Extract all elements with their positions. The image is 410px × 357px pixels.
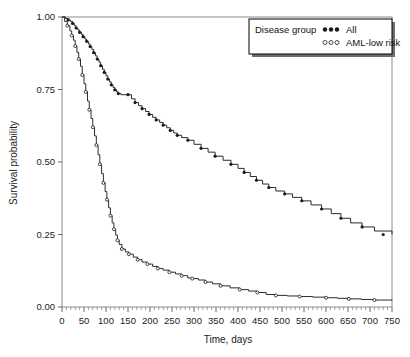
censor-marker: [96, 57, 99, 60]
legend-entry-label: AML-low risk: [346, 37, 401, 48]
censor-marker: [320, 207, 323, 210]
censor-marker: [238, 288, 241, 291]
censor-marker: [117, 92, 120, 95]
censor-marker: [71, 22, 74, 25]
censor-marker: [92, 51, 95, 54]
censor-marker: [74, 26, 77, 29]
legend-marker: [323, 27, 327, 31]
censor-marker: [99, 64, 102, 67]
censor-marker: [98, 163, 101, 166]
censor-marker: [120, 248, 123, 251]
x-tick-label: 100: [98, 315, 114, 326]
plot-frame: [62, 17, 392, 307]
y-tick-label: 0.00: [37, 301, 56, 312]
x-tick-label: 450: [252, 315, 268, 326]
x-axis-ticks: [62, 307, 392, 312]
x-tick-label: 200: [142, 315, 158, 326]
x-tick-label: 600: [318, 315, 334, 326]
x-axis-tick-labels: 0501001502002503003504004505005506006507…: [59, 315, 400, 326]
censor-marker: [84, 90, 87, 93]
y-tick-label: 0.75: [37, 84, 56, 95]
censor-marker: [109, 214, 112, 217]
y-tick-label: 0.50: [37, 156, 56, 167]
y-axis-tick-labels: 0.000.250.500.751.00: [37, 11, 56, 312]
km-curve-aml-low-risk: [62, 17, 392, 301]
censor-marker: [140, 107, 143, 110]
censor-marker: [214, 155, 217, 158]
x-tick-label: 550: [296, 315, 312, 326]
legend-entry-label: All: [346, 24, 357, 35]
censor-marker: [103, 71, 106, 74]
censor-marker: [339, 217, 342, 220]
x-tick-label: 150: [120, 315, 136, 326]
x-tick-label: 400: [230, 315, 246, 326]
censor-marker: [116, 239, 119, 242]
censor-marker: [373, 299, 376, 302]
y-tick-label: 1.00: [37, 11, 56, 22]
legend-marker: [329, 41, 333, 45]
censor-marker: [162, 124, 165, 127]
censor-marker: [66, 24, 69, 27]
censor-marker: [219, 284, 222, 287]
x-tick-label: 300: [186, 315, 202, 326]
censor-marker: [105, 198, 108, 201]
censor-marker: [113, 88, 116, 91]
legend-marker: [335, 27, 339, 31]
plot-border: [62, 17, 392, 307]
y-axis-ticks: [58, 17, 62, 307]
x-tick-label: 250: [164, 315, 180, 326]
x-axis-title: Time, days: [204, 334, 253, 345]
censor-marker: [169, 129, 172, 132]
censor-marker: [256, 291, 259, 294]
x-tick-label: 0: [59, 315, 64, 326]
censor-marker: [325, 296, 328, 299]
censor-marker: [156, 267, 159, 270]
censor-marker: [82, 35, 85, 38]
x-tick-label: 350: [208, 315, 224, 326]
censor-marker: [191, 277, 194, 280]
censor-marker: [168, 271, 171, 274]
censor-marker: [255, 179, 258, 182]
legend-marker: [335, 41, 339, 45]
censor-marker: [148, 113, 151, 116]
censor-marker: [347, 297, 350, 300]
censor-marker: [176, 134, 179, 137]
censor-marker: [78, 31, 81, 34]
censor-marker: [229, 163, 232, 166]
censor-marker: [91, 126, 94, 129]
censor-marker: [95, 144, 98, 147]
censor-marker: [67, 18, 70, 21]
legend-title: Disease group: [255, 24, 316, 35]
censor-marker: [267, 186, 270, 189]
x-tick-label: 50: [79, 315, 90, 326]
censor-marker: [88, 108, 91, 111]
censor-marker: [300, 199, 303, 202]
censor-marker: [81, 74, 84, 77]
legend-marker: [329, 27, 333, 31]
legend: Disease groupAllAML-low risk: [249, 19, 401, 57]
censor-marker: [382, 233, 385, 236]
censor-marker: [89, 45, 92, 48]
y-axis-title: Survival probability: [8, 121, 19, 205]
censor-marker: [102, 181, 105, 184]
x-tick-label: 650: [340, 315, 356, 326]
censor-marker: [85, 40, 88, 43]
x-tick-label: 500: [274, 315, 290, 326]
survival-curves: [62, 17, 392, 301]
legend-marker: [323, 41, 327, 45]
censor-marker: [136, 258, 139, 261]
censor-marker: [274, 294, 277, 297]
censor-marker: [146, 263, 149, 266]
censor-marker: [186, 139, 189, 142]
censor-marker: [199, 147, 202, 150]
x-tick-label: 700: [362, 315, 378, 326]
censor-marker: [243, 171, 246, 174]
censor-marker: [204, 281, 207, 284]
survival-plot: 0501001502002503003504004505005506006507…: [0, 0, 410, 357]
censor-marker: [283, 192, 286, 195]
censor-marker: [77, 58, 80, 61]
x-tick-label: 750: [384, 315, 400, 326]
censor-marker: [106, 77, 109, 80]
censor-marker: [74, 45, 77, 48]
censor-marker: [133, 101, 136, 104]
